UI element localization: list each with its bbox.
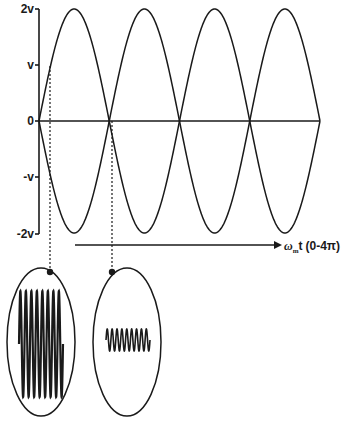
- y-tick-label-neg-v: -v: [23, 170, 34, 184]
- inset-anchor-dot: [47, 269, 53, 275]
- x-axis-label: ωmt(0-4π): [284, 239, 340, 255]
- inset-anchor-dot: [109, 269, 115, 275]
- inset-at-zero: [93, 268, 161, 416]
- y-tick-label-neg-2v: -2v: [17, 227, 35, 241]
- y-tick-label-v: v: [27, 58, 34, 72]
- diagram-canvas: 2v v 0 -v -2v ωmt(0-4π): [0, 0, 351, 424]
- y-tick-label-2v: 2v: [21, 2, 35, 16]
- x-axis-arrow: [75, 241, 282, 249]
- inset-at-v: [7, 268, 75, 416]
- dense-oscillation-waveform: [19, 291, 63, 397]
- y-tick-label-0: 0: [27, 114, 34, 128]
- y-axis: 2v v 0 -v -2v: [17, 2, 39, 241]
- small-oscillation-waveform: [106, 329, 150, 351]
